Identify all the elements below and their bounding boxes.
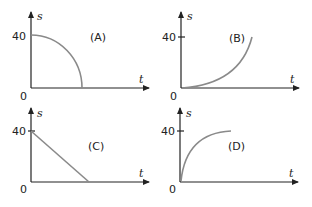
origin-label: 0 xyxy=(169,183,176,196)
curve-a xyxy=(31,35,82,88)
curve-c xyxy=(31,131,89,182)
graph-a: s t 40 0 (A) xyxy=(12,10,149,103)
panel-label-c: (C) xyxy=(88,140,104,153)
graph-b: s t 40 0 (B) xyxy=(162,10,299,103)
y-tick-40: 40 xyxy=(162,31,176,44)
panel-label-b: (B) xyxy=(229,32,245,45)
curve-d xyxy=(181,131,231,181)
s-axis-label: s xyxy=(37,107,43,120)
graph-d: s t 40 0 (D) xyxy=(161,107,298,196)
panel-label-d: (D) xyxy=(228,140,245,153)
s-axis-label: s xyxy=(187,10,193,23)
y-tick-40: 40 xyxy=(12,125,26,138)
origin-label: 0 xyxy=(170,90,177,103)
panel-label-a: (A) xyxy=(90,31,106,44)
st-graphs-figure: s t 40 0 (A) s t 40 0 (B) s t 40 0 (C) s… xyxy=(0,0,312,207)
s-axis-label: s xyxy=(186,107,192,120)
t-axis-label: t xyxy=(139,73,144,86)
y-tick-40: 40 xyxy=(161,125,175,138)
t-axis-label: t xyxy=(139,167,144,180)
origin-label: 0 xyxy=(20,183,27,196)
t-axis-label: t xyxy=(289,167,294,180)
graph-c: s t 40 0 (C) xyxy=(12,107,149,196)
y-tick-40: 40 xyxy=(12,30,26,43)
origin-label: 0 xyxy=(20,90,27,103)
s-axis-label: s xyxy=(37,10,43,23)
t-axis-label: t xyxy=(290,73,295,86)
